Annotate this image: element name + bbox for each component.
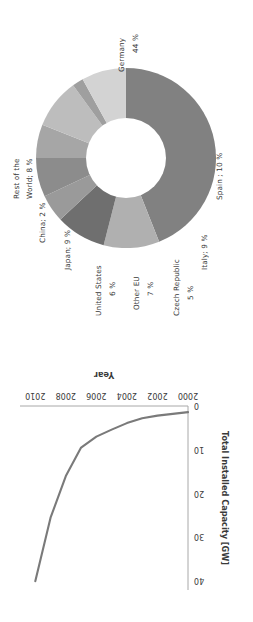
y-tick-label: 0 — [194, 401, 199, 410]
pie-label-rest-of-world-line2: World; 8 % — [25, 158, 34, 199]
pie-label-japan: Japan; 9 % — [63, 230, 72, 270]
pie-label-other-eu: Other EU — [132, 276, 141, 310]
x-tick-label: 2008 — [56, 391, 76, 400]
pie-chart-panel: Germany 44 % Spain ; 10 % Italy; 9 % Cze… — [0, 0, 253, 320]
line-chart-panel: 200020022004200620082010 010203040 Year … — [0, 326, 253, 622]
pie-value-other-eu: 7 % — [146, 282, 155, 296]
y-axis-label: Total Installed Capacity [GW] — [220, 431, 230, 565]
x-tick-label: 2002 — [147, 391, 167, 400]
pie-label-rest-of-world-line1: Rest of the — [12, 158, 21, 199]
line-chart: 200020022004200620082010 010203040 Year … — [6, 334, 246, 620]
pie-label-spain: Spain ; 10 % — [215, 153, 224, 200]
pie-label-czech-republic: Czech Republic — [172, 259, 181, 316]
x-axis-ticks: 200020022004200620082010 — [25, 391, 198, 400]
donut-hole — [86, 118, 166, 198]
donut-chart — [36, 68, 216, 248]
pie-value-germany: 44 % — [131, 34, 140, 53]
x-tick-label: 2006 — [86, 391, 106, 400]
pie-label-germany: Germany — [117, 38, 126, 72]
figure-page: Germany 44 % Spain ; 10 % Italy; 9 % Cze… — [0, 0, 253, 622]
pie-value-united-states: 6 % — [108, 282, 117, 296]
x-tick-label: 2004 — [117, 391, 137, 400]
line-series-path — [35, 412, 188, 581]
y-tick-label: 40 — [194, 576, 204, 585]
y-tick-label: 10 — [194, 445, 204, 454]
y-tick-label: 30 — [194, 532, 204, 541]
y-axis-ticks: 010203040 — [194, 401, 204, 585]
x-tick-label: 2010 — [25, 391, 45, 400]
pie-label-china: China; 2 % — [38, 202, 47, 243]
pie-value-czech-republic: 5 % — [186, 286, 195, 300]
x-axis-label: Year — [93, 370, 115, 380]
y-tick-label: 20 — [194, 489, 204, 498]
pie-label-italy: Italy; 9 % — [200, 234, 209, 270]
pie-label-united-states: United States — [94, 265, 103, 316]
x-tick-label: 2000 — [178, 391, 198, 400]
